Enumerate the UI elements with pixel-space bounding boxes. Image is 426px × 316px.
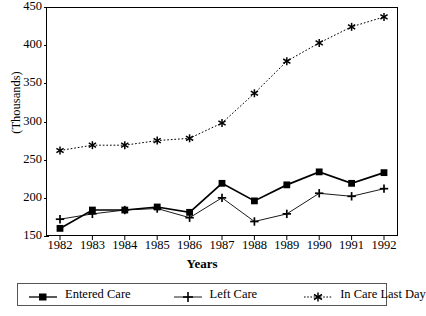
asterisk-marker-icon <box>303 289 333 301</box>
data-point-asterisk <box>348 23 355 31</box>
data-point-square <box>348 180 355 187</box>
data-point-square <box>283 181 290 188</box>
x-tick-label: 1992 <box>364 239 404 252</box>
data-point-asterisk <box>380 13 387 21</box>
data-point-square <box>316 168 323 175</box>
data-point-plus <box>56 215 64 223</box>
data-point-plus <box>250 217 258 225</box>
data-point-square <box>219 180 226 187</box>
data-point-asterisk <box>316 39 323 47</box>
legend-label: Entered Care <box>65 287 131 302</box>
series-line <box>60 189 384 222</box>
data-point-plus <box>380 184 388 192</box>
series-line <box>60 17 384 151</box>
data-point-plus <box>347 192 355 200</box>
data-point-square <box>381 169 388 176</box>
legend-item-in-care-last-day[interactable]: In Care Last Day <box>303 284 426 305</box>
square-marker-icon <box>28 289 58 301</box>
x-axis-title: Years <box>0 256 404 272</box>
chart-legend: Entered Care Left Care <box>17 283 387 306</box>
data-point-square <box>57 225 64 232</box>
data-point-plus <box>283 210 291 218</box>
legend-item-left-care[interactable]: Left Care <box>173 284 258 305</box>
data-point-asterisk <box>186 134 193 142</box>
legend-item-entered-care[interactable]: Entered Care <box>28 284 131 305</box>
data-point-asterisk <box>56 147 63 155</box>
legend-label: In Care Last Day <box>340 287 426 302</box>
data-point-square <box>251 197 258 204</box>
legend-label: Left Care <box>210 287 258 302</box>
data-point-asterisk <box>154 137 161 145</box>
data-point-plus <box>218 194 226 202</box>
data-point-plus <box>315 189 323 197</box>
plus-marker-icon <box>173 289 203 301</box>
